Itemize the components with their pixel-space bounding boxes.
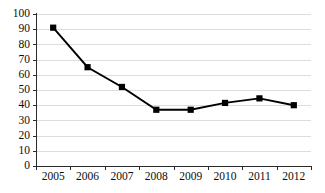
data-point-2007 (119, 84, 125, 90)
y-axis-label-50: 50 (19, 83, 31, 95)
y-axis-label-0: 0 (24, 159, 30, 171)
x-axis-label-2010: 2010 (214, 170, 237, 182)
y-axis-label-90: 90 (19, 22, 31, 34)
x-axis-label-2012: 2012 (282, 170, 305, 182)
data-point-2009 (188, 107, 194, 113)
data-point-2012 (291, 102, 297, 108)
x-axis-label-2008: 2008 (145, 170, 168, 182)
x-axis-label-2011: 2011 (248, 170, 271, 182)
x-axis-label-2006: 2006 (76, 170, 99, 182)
chart-canvas: 0102030405060708090100 20052006200720082… (0, 0, 325, 193)
y-axis-label-40: 40 (19, 98, 31, 110)
y-axis-label-10: 10 (19, 144, 31, 156)
x-axis-label-2005: 2005 (42, 170, 65, 182)
data-point-2008 (153, 107, 159, 113)
data-point-2011 (256, 95, 262, 101)
x-axis-label-2007: 2007 (110, 170, 133, 182)
line-chart: 0102030405060708090100 20052006200720082… (0, 0, 325, 193)
chart-background (0, 0, 325, 193)
y-axis-label-80: 80 (19, 38, 31, 50)
data-point-2006 (84, 64, 90, 70)
y-axis-label-100: 100 (13, 7, 31, 19)
y-axis-label-60: 60 (19, 68, 31, 80)
y-axis-label-20: 20 (19, 129, 31, 141)
y-axis-label-70: 70 (19, 53, 31, 65)
y-axis-label-30: 30 (19, 114, 31, 126)
data-point-2005 (50, 25, 56, 31)
x-axis-label-2009: 2009 (179, 170, 202, 182)
data-point-2010 (222, 100, 228, 106)
